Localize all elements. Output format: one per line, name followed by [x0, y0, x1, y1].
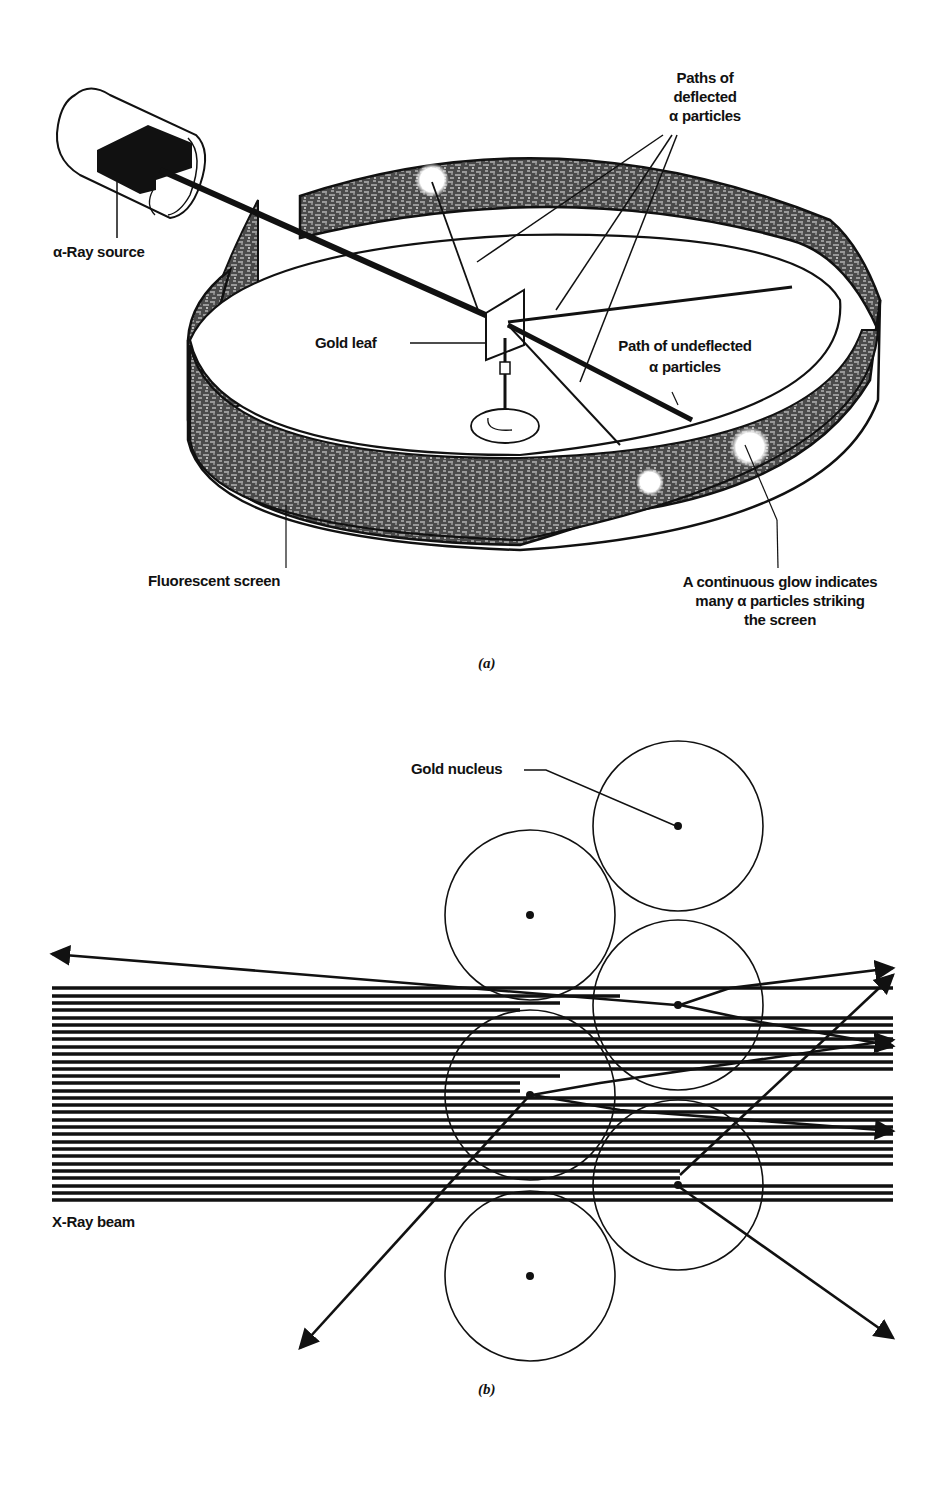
fluorescent-screen-label: Fluorescent screen [148, 572, 280, 590]
gold-nucleus-label: Gold nucleus [411, 760, 502, 778]
alpha-source-label: α-Ray source [53, 243, 145, 261]
nucleus-leader-line [524, 770, 676, 826]
deflected-paths-label: Paths of deflected α particles [650, 68, 760, 125]
glow-label-line2: many α particles striking [650, 591, 910, 610]
gold-nucleus [445, 830, 615, 1000]
undeflected-path-label: Path of undeflected α particles [600, 335, 770, 377]
panel-b-caption: (b) [478, 1381, 496, 1398]
continuous-glow-label: A continuous glow indicates many α parti… [650, 572, 910, 629]
glow-label-line3: the screen [650, 610, 910, 629]
gold-leaf-label: Gold leaf [315, 334, 376, 352]
rutherford-figure: α-Ray source Paths of deflected α partic… [0, 0, 951, 1496]
gold-nucleus [445, 1191, 615, 1361]
undeflected-label-line1: Path of undeflected [600, 335, 770, 356]
gold-nucleus [593, 741, 763, 911]
deflected-label-line1: Paths of [650, 68, 760, 87]
deflected-rays [52, 954, 893, 1348]
x-ray-beam-label: X-Ray beam [52, 1213, 135, 1231]
deflected-label-line2: deflected [650, 87, 760, 106]
gold-nucleus [593, 920, 763, 1090]
deflected-label-line3: α particles [650, 106, 760, 125]
panel-a-caption: (a) [478, 655, 496, 672]
panel-b-illustration [0, 0, 951, 1496]
glow-label-line1: A continuous glow indicates [650, 572, 910, 591]
undeflected-label-line2: α particles [600, 356, 770, 377]
gold-nuclei [445, 741, 763, 1361]
